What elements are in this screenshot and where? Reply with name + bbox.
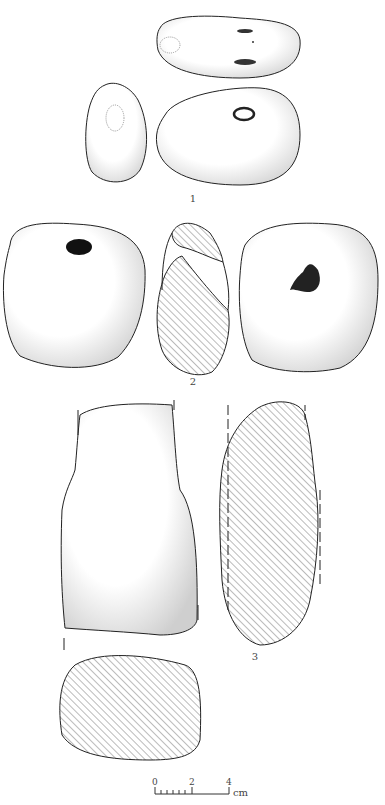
scale-tick-4: 4 <box>226 777 232 787</box>
artifact-1-side-view <box>86 83 147 182</box>
artifact-label-1: 1 <box>183 193 203 204</box>
artifact-2 <box>3 223 378 375</box>
scale-tick-0: 0 <box>152 777 158 787</box>
artifact-3-longitudinal-section <box>220 402 318 645</box>
artifact-1 <box>86 16 300 185</box>
artifact-drawings <box>0 0 385 805</box>
artifact-1-front-view <box>156 88 300 185</box>
scale-unit: cm <box>233 787 248 798</box>
scale-bar <box>155 787 229 794</box>
perforation <box>234 108 254 120</box>
scale-tick-2: 2 <box>189 777 195 787</box>
artifact-label-3: 3 <box>245 651 265 662</box>
artifact-2-cross-section <box>157 223 229 375</box>
artifact-1-top-view <box>157 16 300 78</box>
artifact-3-transverse-section <box>60 656 201 760</box>
artifact-3 <box>60 400 320 760</box>
artifact-2-back-view <box>239 223 378 372</box>
perforation <box>66 239 92 255</box>
artifact-label-2: 2 <box>183 376 203 387</box>
artifact-3-face-view <box>61 404 197 635</box>
